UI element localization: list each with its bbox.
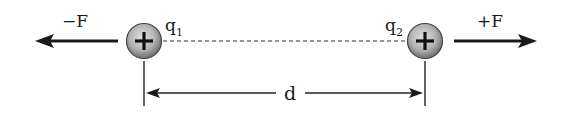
coulomb-diagram: −F q1 q2 +F — [0, 0, 563, 114]
charge-label-q1: q1 — [165, 15, 183, 39]
diagram-canvas: −F q1 q2 +F — [0, 0, 563, 114]
force-label-left: −F — [62, 11, 88, 31]
force-arrow-left — [35, 34, 118, 48]
charge-label-q2: q2 — [385, 15, 403, 39]
charge-q1 — [127, 24, 162, 59]
force-label-right: +F — [477, 11, 503, 31]
charge-q2 — [408, 24, 443, 59]
distance-label: d — [284, 82, 296, 104]
force-arrow-right — [454, 34, 537, 48]
